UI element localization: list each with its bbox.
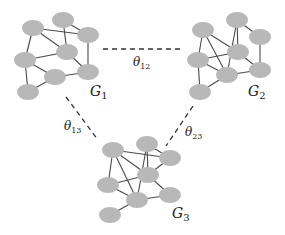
g1-label: G1 (90, 83, 108, 101)
graph-node (56, 44, 78, 60)
dashed-links (66, 49, 193, 146)
graph-node (22, 20, 44, 36)
graph-node (192, 22, 214, 38)
graph-node (14, 52, 36, 68)
graph-node (189, 84, 211, 100)
graph-node (216, 67, 238, 83)
graph-node (102, 142, 124, 158)
graphs (14, 12, 271, 223)
theta13-label: θ13 (64, 119, 81, 135)
graph-node (159, 187, 181, 203)
graph-node (187, 52, 209, 68)
graph-node (77, 27, 99, 43)
theta12-label: θ12 (133, 55, 150, 71)
graph-node (249, 62, 271, 78)
graph-node (136, 136, 158, 152)
graph-node (137, 167, 159, 183)
graph-similarity-diagram: θ12θ13θ23G1G2G3 (0, 0, 285, 235)
graph-node (17, 84, 39, 100)
graph-g3 (97, 136, 181, 223)
theta23-label: θ23 (185, 125, 202, 141)
graph-node (249, 29, 271, 45)
graph-node (159, 150, 181, 166)
g2-label: G2 (248, 83, 266, 101)
graph-node (99, 207, 121, 223)
graph-node (44, 69, 66, 85)
graph-node (227, 44, 249, 60)
graph-node (52, 12, 74, 28)
graph-node (97, 177, 119, 193)
graph-node (226, 12, 248, 28)
g3-label: G3 (172, 205, 190, 223)
graph-node (77, 64, 99, 80)
graph-node (126, 192, 148, 208)
graph-g1 (14, 12, 99, 100)
